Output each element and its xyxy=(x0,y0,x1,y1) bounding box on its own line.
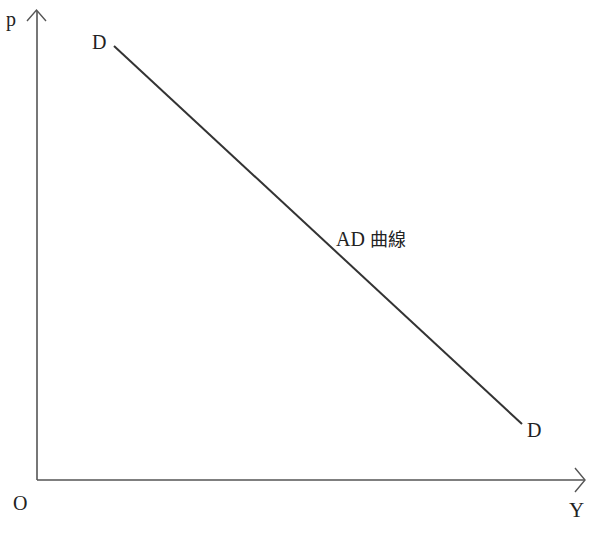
curve-start-label: D xyxy=(92,32,106,52)
ad-curve-label: AD 曲線 xyxy=(336,229,406,249)
curve-end-label: D xyxy=(527,420,541,440)
ad-curve-line xyxy=(114,46,522,424)
x-axis-label: Y xyxy=(569,500,584,521)
y-axis-label: p xyxy=(6,9,16,29)
origin-label: O xyxy=(13,493,27,513)
ad-curve-label-latin: AD xyxy=(336,228,365,250)
ad-curve-diagram xyxy=(0,0,590,533)
ad-curve-label-cjk: 曲線 xyxy=(370,229,406,250)
